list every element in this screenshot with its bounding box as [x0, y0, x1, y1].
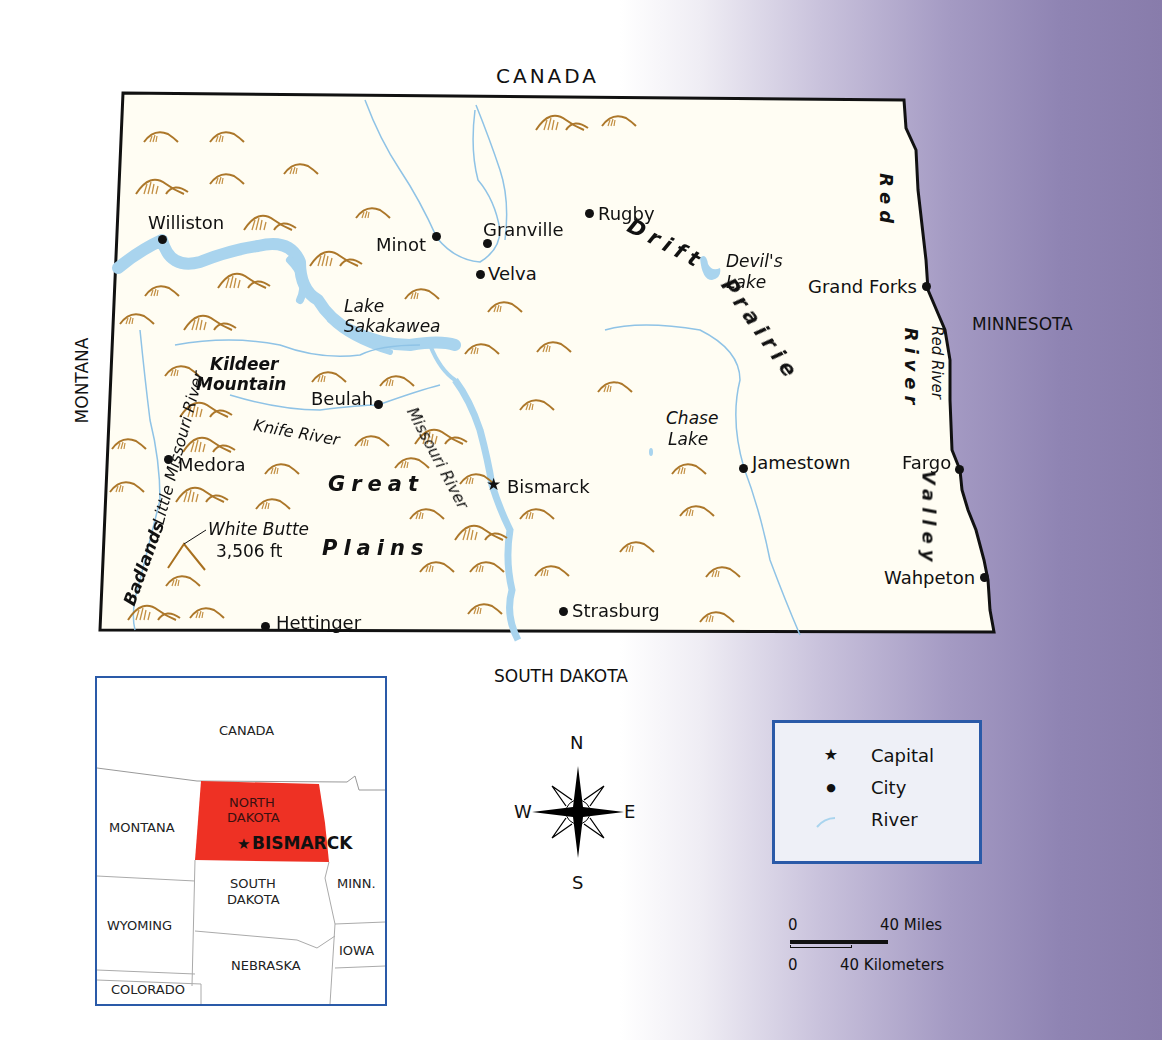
legend-capital: ★ Capital: [775, 745, 979, 775]
compass-s: S: [572, 874, 583, 892]
inset-label-north-dakota-1: NORTH: [229, 796, 275, 810]
inset-label-colorado: COLORADO: [111, 983, 185, 997]
inset-label-south-dakota-1: SOUTH: [230, 877, 276, 891]
map-legend: ★ Capital ● City River: [772, 720, 982, 864]
label-minnesota: MINNESOTA: [972, 316, 1073, 333]
city-dot: [739, 464, 748, 473]
label-lake-sakakawea-1: Lake: [344, 298, 384, 315]
compass-n: N: [570, 734, 583, 752]
river-line-icon: [815, 813, 835, 829]
city-williston: Williston: [148, 214, 224, 232]
city-dot: [261, 622, 270, 631]
inset-label-wyoming: WYOMING: [107, 919, 172, 933]
city-wahpeton: Wahpeton: [884, 569, 975, 587]
label-plains: Plains: [322, 538, 429, 559]
label-red-river: Red River: [929, 326, 944, 399]
city-dot: [476, 270, 485, 279]
inset-label-nebraska: NEBRASKA: [231, 959, 301, 973]
city-velva: Velva: [488, 265, 537, 283]
compass-e: E: [624, 803, 635, 821]
city-granville: Granville: [483, 221, 564, 239]
label-chase-lake-2: Lake: [668, 431, 708, 448]
label-red-valley-2: River: [902, 328, 920, 411]
city-hettinger: Hettinger: [276, 614, 361, 632]
label-red-valley-1: Red: [877, 173, 895, 229]
city-bismarck: Bismarck: [507, 478, 590, 496]
label-devils-lake-1: Devil's: [726, 253, 783, 270]
label-canada: CANADA: [496, 66, 599, 86]
city-fargo: Fargo: [902, 454, 951, 472]
city-dot: [585, 209, 594, 218]
label-kildeer-2: Mountain: [196, 376, 286, 393]
city-strasburg: Strasburg: [572, 602, 660, 620]
city-dot: [432, 232, 441, 241]
label-montana: MONTANA: [74, 338, 91, 424]
city-dot: [980, 573, 989, 582]
label-red-valley-3: Valley: [919, 471, 937, 568]
inset-label-canada: CANADA: [219, 724, 274, 738]
inset-label-minn: MINN.: [337, 877, 376, 891]
inset-label-bismarck: BISMARCK: [252, 834, 352, 853]
city-grand-forks: Grand Forks: [808, 278, 917, 296]
city-beulah: Beulah: [311, 390, 373, 408]
compass-w: W: [514, 803, 532, 821]
city-minot: Minot: [376, 236, 426, 254]
label-kildeer-1: Kildeer: [210, 356, 278, 373]
label-south-dakota: SOUTH DAKOTA: [494, 668, 628, 685]
inset-label-south-dakota-2: DAKOTA: [227, 893, 280, 907]
capital-star-icon: ★: [486, 476, 501, 493]
label-white-butte: White Butte: [208, 521, 309, 538]
inset-label-montana: MONTANA: [109, 821, 175, 835]
scale-km-bar: [790, 945, 852, 948]
compass-rose: N S E W: [506, 730, 656, 900]
inset-label-north-dakota-2: DAKOTA: [227, 811, 280, 825]
chase-lake: [649, 448, 653, 456]
scale-miles-bar: [790, 940, 888, 944]
label-chase-lake-1: Chase: [666, 410, 718, 427]
city-dot: [483, 239, 492, 248]
inset-capital-star-icon: ★: [237, 836, 250, 853]
city-medora: Medora: [178, 456, 245, 474]
inset-label-iowa: IOWA: [339, 944, 374, 958]
label-lake-sakakawea-2: Sakakawea: [344, 318, 441, 335]
legend-city: ● City: [775, 777, 979, 807]
city-dot: [374, 400, 383, 409]
star-icon: ★: [821, 745, 841, 764]
city-jamestown: Jamestown: [752, 454, 851, 472]
inset-locator-map: CANADA MONTANA NORTH DAKOTA ★ BISMARCK S…: [95, 676, 387, 1006]
scale-bar: 0 40 Miles 0 40 Kilometers: [788, 918, 968, 978]
label-white-butte-elevation: 3,506 ft: [216, 543, 282, 560]
label-great: Great: [328, 474, 424, 495]
city-dot: [922, 282, 931, 291]
city-dot: [158, 235, 167, 244]
city-dot: [955, 465, 964, 474]
dot-icon: ●: [821, 781, 841, 794]
city-dot: [559, 607, 568, 616]
legend-river: River: [775, 809, 979, 839]
